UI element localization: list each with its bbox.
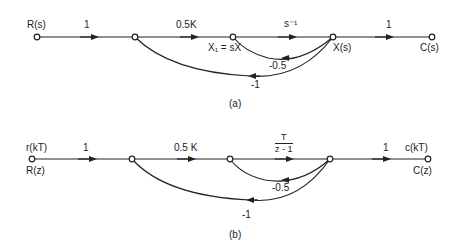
caption-a: (a) [229,99,241,109]
node-r-b [29,156,35,162]
node-c-b [425,156,431,162]
gain-denominator: z - 1 [275,144,293,154]
gain-n3-to-n4-b: T z - 1 [275,133,293,154]
gain-r-to-n2: 1 [84,20,90,30]
label-output-ckt: c(kT) [405,143,428,153]
gain-n2-to-x1: 0.5K [176,20,197,30]
label-input-rz: R(z) [26,166,45,176]
caption-b: (b) [229,230,241,240]
gain-x1-to-x: s⁻¹ [284,19,297,29]
gain-x-to-c: 1 [386,20,392,30]
node-x [330,34,336,40]
diagram-b-feedback-paths [132,159,330,200]
node-3-b [227,156,233,162]
node-4-b [327,156,333,162]
gain-feedback-05-b: -0.5 [272,183,289,193]
label-output-cs: C(s) [420,43,439,53]
gain-r-to-n2-b: 1 [83,143,89,153]
node-x1 [230,34,236,40]
gain-feedback-05: -0.5 [269,61,286,71]
gain-feedback-1-b: -1 [242,210,251,220]
node-c [429,34,435,40]
gain-n2-to-n3-b: 0.5 K [174,143,197,153]
label-input-rs: R(s) [27,20,46,30]
gain-n4-to-c-b: 1 [383,143,389,153]
node-2 [132,34,138,40]
label-xs: X(s) [333,43,351,53]
label-x1: X₁ = sX [208,43,241,53]
label-output-cz: C(z) [413,166,432,176]
gain-numerator: T [275,133,293,144]
node-r [34,34,40,40]
gain-feedback-1: -1 [251,80,260,90]
node-2-b [129,156,135,162]
signal-flow-graphs [0,0,460,245]
label-input-rkt: r(kT) [26,143,47,153]
